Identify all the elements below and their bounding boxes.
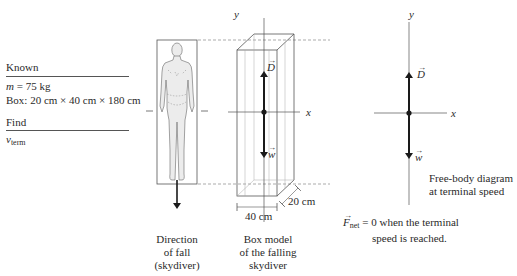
fbd-caption: Free-body diagram at terminal speed — [429, 172, 513, 198]
net-force-note: →Fnet = 0 when the terminal speed is rea… — [343, 216, 459, 245]
box-center-point — [261, 109, 266, 114]
skydiver-caption: Direction of fall (skydiver) — [146, 233, 208, 272]
skydiver-figure — [146, 40, 208, 206]
vector-arrow-icon: → — [268, 141, 276, 154]
drag-vector-symbol: →D — [267, 61, 275, 73]
net-force-symbol: →F — [343, 216, 350, 228]
box-drag-label: →D — [267, 61, 275, 74]
vector-arrow-icon: → — [268, 54, 276, 67]
vector-arrow-icon: → — [418, 61, 426, 74]
box-top-face — [237, 34, 294, 50]
box-model-caption: Box model of the falling skydiver — [235, 233, 301, 272]
vector-arrow-icon: → — [415, 144, 423, 157]
vector-arrow-icon: → — [344, 209, 352, 222]
box-x-label: x — [306, 106, 311, 119]
depth-label: 20 cm — [288, 195, 315, 208]
fbd-y-label: y — [409, 8, 414, 21]
human-silhouette-icon — [160, 43, 194, 180]
box-force-vectors — [261, 74, 266, 155]
fbd-weight-label: →w — [415, 151, 422, 164]
box-weight-label: →w — [268, 148, 275, 161]
fbd-center-point — [406, 110, 411, 115]
fbd-x-label: x — [451, 107, 456, 120]
width-label: 40 cm — [245, 210, 272, 223]
box-y-label: y — [234, 8, 239, 21]
fbd-drag-label: →D — [417, 68, 425, 81]
